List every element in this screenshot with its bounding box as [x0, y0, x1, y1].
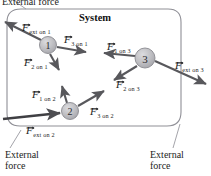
force-letter: F: [90, 105, 97, 117]
force-label-1-on-2: F1 on 2: [32, 85, 56, 101]
external-force-caption-bottom-right: External force: [150, 150, 208, 172]
force-subscript-3-on-1: 3 on 1: [71, 40, 88, 47]
force-subscript-ext-on-2: ext on 2: [33, 131, 55, 138]
force-letter: F: [116, 78, 123, 90]
force-subscript-1-on-2: 1 on 2: [39, 95, 56, 102]
force-symbol-2-on-3: F: [116, 79, 123, 90]
system-label: System: [79, 13, 111, 24]
force-symbol-ext-on-2: F: [26, 125, 33, 136]
external-force-caption-top: External force: [2, 0, 59, 8]
force-symbol-3-on-1: F: [64, 34, 71, 45]
force-subscript-1-on-3: 1 on 3: [114, 47, 131, 54]
particle-2-label: 2: [68, 106, 73, 117]
external-force-top-line1: External force: [2, 0, 59, 7]
leader-line-bottom-left: [10, 130, 21, 148]
force-letter: F: [32, 88, 39, 100]
particle-1: 1: [40, 37, 57, 54]
force-subscript-3-on-2: 3 on 2: [97, 112, 114, 119]
external-force-caption-bottom-left: External force: [5, 150, 63, 172]
force-letter: F: [24, 56, 31, 68]
force-letter: F: [175, 59, 182, 71]
force-subscript-2-on-3: 2 on 3: [123, 85, 140, 92]
leader-line-bottom-right: [173, 124, 180, 148]
force-arrow-1-on-2: [62, 86, 67, 103]
force-subscript-ext-on-1: ext on 1: [29, 28, 51, 35]
force-letter: F: [64, 33, 71, 45]
force-label-1-on-3: F1 on 3: [107, 37, 131, 53]
external-force-br-line2: force: [150, 161, 208, 172]
force-label-2-on-1: F2 on 1: [24, 53, 48, 69]
force-subscript-2-on-1: 2 on 1: [31, 63, 48, 70]
particle-2: 2: [62, 103, 79, 120]
force-label-2-on-3: F2 on 3: [116, 75, 140, 91]
force-label-ext-on-1: Fext on 1: [22, 18, 51, 34]
force-label-3-on-1: F3 on 1: [64, 30, 88, 46]
force-label-ext-on-2: Fext on 2: [26, 121, 55, 137]
force-letter: F: [22, 21, 29, 33]
external-force-bl-line2: force: [5, 161, 63, 172]
force-letter: F: [107, 40, 114, 52]
force-letter: F: [26, 124, 33, 136]
particle-1-label: 1: [46, 40, 51, 51]
force-arrow-2-on-1: [50, 54, 59, 70]
particle-3: 3: [135, 48, 155, 68]
force-label-3-on-2: F3 on 2: [90, 102, 114, 118]
force-symbol-1-on-3: F: [107, 41, 114, 52]
force-symbol-3-on-2: F: [90, 106, 97, 117]
physics-diagram-canvas: 1 2 3 External force System Fext on 1: [0, 0, 211, 176]
force-symbol-ext-on-3: F: [175, 60, 182, 71]
force-symbol-2-on-1: F: [24, 57, 31, 68]
force-subscript-ext-on-3: ext on 3: [182, 66, 204, 73]
particle-3-label: 3: [142, 53, 148, 65]
force-arrow-3-on-1: [57, 47, 86, 52]
force-label-ext-on-3: Fext on 3: [175, 56, 204, 72]
force-symbol-ext-on-1: F: [22, 22, 29, 33]
force-symbol-1-on-2: F: [32, 89, 39, 100]
force-arrow-ext-on-2: [3, 113, 60, 119]
